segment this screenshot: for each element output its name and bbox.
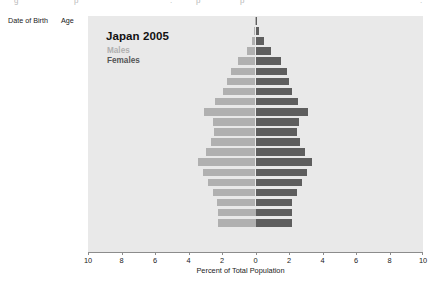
bar-females (256, 138, 300, 146)
pyramid-row (88, 117, 423, 127)
bar-females (256, 169, 308, 177)
axis-tick-label: 4 (320, 256, 324, 265)
bar-males (218, 209, 256, 217)
bar-males (208, 179, 256, 187)
caption-fragment: p (74, 0, 78, 6)
axis-tick-label: 2 (220, 256, 224, 265)
axis-tick-label: 10 (84, 256, 92, 265)
bar-males (206, 148, 255, 156)
table-row (0, 143, 88, 153)
table-row (0, 32, 88, 42)
table-row (0, 224, 88, 234)
bar-males (214, 128, 255, 136)
bar-females (256, 128, 298, 136)
axis-tick (155, 252, 156, 255)
table-row (0, 194, 88, 204)
axis-tick-label: 8 (119, 256, 123, 265)
axis-tick-label: 4 (186, 256, 190, 265)
pyramid-row (88, 208, 423, 218)
axis-tick (323, 252, 324, 255)
x-axis-title: Percent of Total Population (0, 266, 435, 275)
axis-tick-label: 2 (287, 256, 291, 265)
axis-tick-label: 6 (153, 256, 157, 265)
bar-females (256, 219, 292, 227)
cohort-label-list (0, 32, 88, 244)
pyramid-row (88, 107, 423, 117)
cut-off-caption: g p . p p . (0, 0, 435, 11)
bar-females (256, 189, 297, 197)
column-header-age: Age (61, 16, 74, 25)
bar-males (218, 219, 256, 227)
bar-females (256, 98, 299, 106)
bar-females (256, 199, 293, 207)
caption-fragment: p (240, 0, 244, 6)
pyramid-row (88, 127, 423, 137)
axis-tick (189, 252, 190, 255)
pyramid-row (88, 87, 423, 97)
legend-item-females: Females (107, 56, 140, 66)
caption-fragment: p (196, 0, 200, 6)
chart-title: Japan 2005 (106, 30, 169, 42)
table-row (0, 153, 88, 163)
bar-males (203, 169, 256, 177)
pyramid-row (88, 77, 423, 87)
bar-males (211, 138, 255, 146)
pyramid-row (88, 16, 423, 26)
table-row (0, 113, 88, 123)
bar-males (217, 199, 256, 207)
bar-females (256, 179, 303, 187)
pyramid-row (88, 157, 423, 167)
pyramid-row (88, 198, 423, 208)
bar-males (247, 47, 256, 55)
table-row (0, 133, 88, 143)
table-row (0, 183, 88, 193)
table-row (0, 123, 88, 133)
pyramid-row (88, 167, 423, 177)
bar-females (256, 88, 292, 96)
axis-tick (289, 252, 290, 255)
axis-tick (422, 252, 423, 255)
caption-fragment: . (170, 0, 172, 6)
bar-females (256, 209, 292, 217)
label-table-header: Date of Birth Age (0, 16, 88, 28)
bar-females (256, 47, 272, 55)
table-row (0, 234, 88, 244)
bar-females (256, 57, 282, 65)
bar-females (256, 118, 300, 126)
bar-males (238, 57, 255, 65)
axis-tick (356, 252, 357, 255)
axis-tick (122, 252, 123, 255)
bar-females (256, 148, 305, 156)
bar-females (256, 108, 309, 116)
population-pyramid-figure: g p . p p . Date of Birth Age Japan 2005… (0, 0, 435, 287)
x-axis-title-text: Percent of Total Population (196, 266, 284, 275)
table-row (0, 52, 88, 62)
axis-tick (390, 252, 391, 255)
legend: Males Females (107, 46, 140, 65)
bar-males (213, 189, 256, 197)
table-row (0, 72, 88, 82)
bar-males (198, 158, 256, 166)
table-row (0, 62, 88, 72)
bar-females (256, 27, 259, 35)
table-row (0, 204, 88, 214)
pyramid-row (88, 147, 423, 157)
legend-item-males: Males (107, 46, 140, 56)
table-row (0, 103, 88, 113)
bar-males (227, 78, 255, 86)
axis-tick-label: 0 (253, 256, 257, 265)
pyramid-row (88, 218, 423, 228)
bar-females (256, 78, 290, 86)
pyramid-row (88, 188, 423, 198)
caption-fragment: . (420, 0, 422, 6)
table-row (0, 163, 88, 173)
table-row (0, 42, 88, 52)
bar-males (231, 68, 255, 76)
caption-fragment: g (14, 0, 18, 6)
bar-males (204, 108, 255, 116)
pyramid-row (88, 178, 423, 188)
table-row (0, 214, 88, 224)
table-row (0, 82, 88, 92)
pyramid-row (88, 137, 423, 147)
axis-tick-label: 6 (354, 256, 358, 265)
